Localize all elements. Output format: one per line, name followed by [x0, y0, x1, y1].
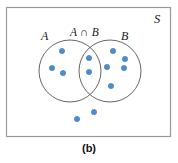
element-dot — [110, 48, 115, 53]
venn-diagram-canvas — [0, 0, 178, 163]
element-dot — [121, 65, 126, 70]
universal-set-label: S — [154, 13, 160, 26]
element-dot — [91, 109, 96, 114]
element-dot — [86, 69, 91, 74]
element-dot — [74, 116, 79, 121]
figure-caption: (b) — [0, 143, 178, 154]
element-dot — [122, 56, 127, 61]
element-dot — [60, 70, 65, 75]
element-dot — [59, 48, 64, 53]
element-dot — [108, 83, 113, 88]
element-dot — [86, 55, 91, 60]
set-a-label: A — [41, 30, 48, 42]
element-dot — [104, 64, 109, 69]
intersection-label: A ∩ B — [70, 27, 99, 39]
element-dot — [49, 65, 54, 70]
set-b-label: B — [121, 30, 128, 42]
venn-diagram-figure: S A B A ∩ B (b) — [0, 0, 178, 163]
